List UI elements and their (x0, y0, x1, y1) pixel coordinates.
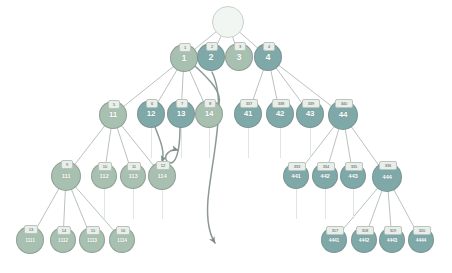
node-badge-4: 4 (263, 42, 275, 51)
node-badge-7: 7 (176, 99, 188, 108)
stub-under-n13 (181, 128, 182, 158)
node-badge-333: 333 (288, 162, 306, 171)
node-label: 443 (348, 173, 357, 179)
node-badge-16: 16 (116, 226, 130, 235)
tree-edge-n1-n12 (158, 69, 178, 103)
node-badge-1: 1 (179, 43, 191, 52)
tree-edge-n444-n4441 (342, 188, 378, 231)
node-label: 1114 (117, 238, 127, 243)
node-badge-320: 320 (413, 226, 431, 235)
node-badge-336: 336 (379, 161, 397, 170)
tree-edge-n111-n1114 (75, 187, 114, 231)
node-badge-10: 10 (98, 162, 112, 171)
node-label: 1111 (25, 238, 35, 243)
node-label: 1 (182, 54, 187, 63)
stub-under-n12 (151, 128, 152, 158)
node-label: 41 (244, 110, 253, 118)
node-badge-3: 3 (234, 42, 246, 51)
tree-node-root[interactable] (212, 6, 244, 38)
tree-edge-n444-n4442 (368, 190, 382, 229)
stub-under-n113 (133, 189, 134, 219)
node-badge-12: 12 (156, 161, 170, 170)
tree-edge-n44-n443 (345, 129, 351, 164)
stub-under-n443 (353, 189, 354, 219)
node-label: 44 (339, 111, 348, 119)
node-label: 442 (320, 173, 329, 179)
node-label: 13 (177, 110, 186, 118)
tree-edge-n4-n42 (271, 70, 278, 102)
node-badge-8: 8 (204, 99, 216, 108)
node-badge-318: 318 (356, 226, 374, 235)
node-label: 4441 (329, 238, 339, 243)
tree-edge-n111-n1112 (64, 190, 66, 228)
node-label: 4 (266, 53, 271, 62)
node-badge-337: 337 (240, 99, 258, 108)
stub-under-n14 (209, 128, 210, 158)
stub-under-n43 (310, 128, 311, 158)
arrow-n12-to-n114 (155, 127, 163, 162)
node-label: 114 (157, 173, 166, 179)
tree-edge-n44-n444 (351, 126, 379, 165)
node-label: 12 (147, 110, 156, 118)
node-badge-11: 11 (127, 162, 141, 171)
node-label: 112 (99, 173, 108, 179)
tree-edge-n111-n1111 (36, 188, 59, 228)
tree-edge-n4-n41 (252, 69, 263, 101)
node-badge-13: 13 (24, 225, 38, 234)
tree-edge-n11-n111 (75, 125, 106, 165)
tree-edge-n444-n4444 (394, 189, 416, 229)
node-badge-334: 334 (317, 162, 335, 171)
node-label: 4442 (359, 238, 369, 243)
node-label: 1113 (87, 238, 97, 243)
stub-under-n112 (104, 189, 105, 219)
tree-edge-n44-n442 (328, 128, 339, 164)
node-badge-338: 338 (272, 99, 290, 108)
node-label: 4443 (387, 238, 397, 243)
node-badge-5: 5 (108, 100, 120, 109)
node-label: 2 (209, 53, 214, 62)
node-badge-2: 2 (206, 42, 218, 51)
node-badge-319: 319 (384, 226, 402, 235)
node-label: 43 (306, 110, 315, 118)
stub-under-n442 (325, 189, 326, 219)
node-label: 3 (237, 53, 242, 62)
node-badge-9: 9 (61, 160, 73, 169)
node-label: 111 (62, 173, 71, 179)
node-badge-340: 340 (335, 99, 353, 108)
node-badge-317: 317 (326, 226, 344, 235)
node-label: 11 (109, 111, 117, 119)
arrow-n13-loop (165, 128, 180, 163)
node-label: 4444 (416, 238, 426, 243)
node-label: 42 (276, 110, 285, 118)
node-label: 444 (382, 174, 391, 180)
node-label: 113 (128, 173, 137, 179)
node-badge-15: 15 (86, 226, 100, 235)
stub-under-n441 (296, 189, 297, 219)
tree-edge-n11-n114 (121, 125, 154, 166)
tree-edge-n1-n14 (189, 70, 203, 102)
stub-under-n42 (280, 128, 281, 158)
node-label: 441 (291, 173, 300, 179)
tree-edge-n111-n1113 (71, 189, 87, 229)
stub-under-n114 (162, 189, 163, 219)
diagram-canvas: 1122334411512613714841337423384333944340… (0, 0, 452, 273)
node-badge-339: 339 (302, 99, 320, 108)
tree-edge-n444-n4443 (388, 191, 391, 228)
node-label: 14 (205, 110, 214, 118)
node-badge-6: 6 (146, 99, 158, 108)
node-badge-14: 14 (57, 226, 71, 235)
node-label: 1112 (58, 238, 68, 243)
stub-under-n41 (248, 128, 249, 158)
tree-edge-n11-n112 (106, 128, 111, 164)
node-badge-335: 335 (345, 162, 363, 171)
tree-edge-n1-n13 (182, 71, 184, 101)
